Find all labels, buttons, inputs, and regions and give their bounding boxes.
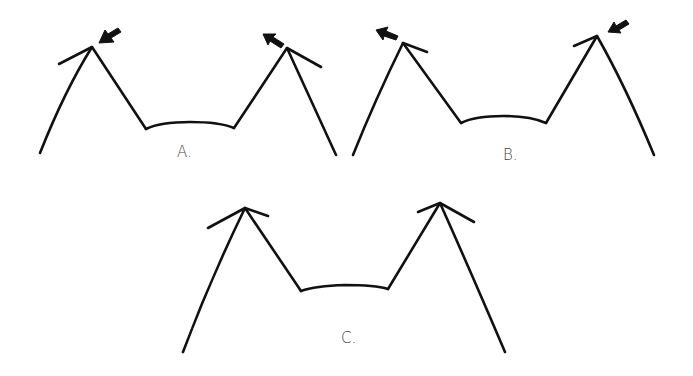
figure-b-label: B. bbox=[503, 146, 518, 164]
figure-c-label: C. bbox=[341, 329, 356, 347]
figure-a-valley bbox=[146, 122, 234, 129]
figure-b-valley bbox=[461, 116, 546, 123]
figure-b-left-mountain bbox=[353, 43, 461, 155]
figure-a-right-arrow-icon bbox=[263, 34, 284, 48]
figure-b-left-arrow-icon bbox=[376, 27, 398, 40]
figure-c-valley bbox=[301, 285, 388, 291]
diagram-canvas: A. B. C. bbox=[0, 0, 693, 376]
figure-a-label: A. bbox=[177, 143, 192, 161]
figure-b: B. bbox=[353, 20, 654, 164]
figure-a-right-mountain bbox=[234, 48, 336, 155]
figure-c-right-mountain bbox=[388, 203, 505, 352]
figure-b-right-arrow-icon bbox=[608, 20, 629, 33]
figure-a-left-mountain bbox=[40, 47, 146, 153]
figure-c-left-mountain bbox=[183, 208, 301, 352]
figure-b-right-mountain bbox=[546, 36, 654, 155]
figure-a: A. bbox=[40, 28, 336, 161]
figure-a-left-arrow-icon bbox=[99, 28, 121, 43]
figure-c: C. bbox=[183, 203, 505, 352]
